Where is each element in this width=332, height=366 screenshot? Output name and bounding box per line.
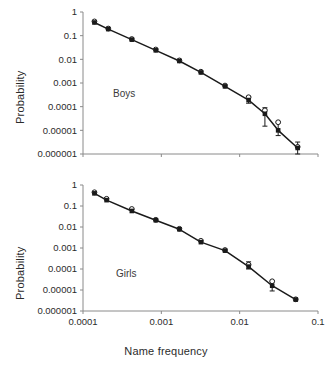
svg-text:0.01: 0.01: [59, 54, 78, 65]
y-axis-label-girls: Probability: [14, 246, 26, 300]
svg-text:1: 1: [72, 180, 77, 190]
svg-text:0.001: 0.001: [53, 77, 77, 88]
chart-panel-boys: 10.10.010.0010.00010.000010.000001: [0, 0, 332, 183]
series-annotation-girls: Girls: [116, 268, 137, 279]
svg-text:0.01: 0.01: [230, 316, 249, 327]
svg-text:0.001: 0.001: [149, 316, 173, 327]
figure-container: 10.10.010.0010.00010.000010.000001 10.10…: [0, 0, 332, 366]
chart-panel-girls: 10.10.010.0010.00010.000010.0000010.0001…: [0, 180, 332, 366]
svg-text:0.0001: 0.0001: [68, 316, 97, 327]
svg-text:0.0001: 0.0001: [48, 263, 77, 274]
plot-area-boys: 10.10.010.0010.00010.000010.000001: [0, 0, 332, 183]
x-axis-label: Name frequency: [0, 345, 332, 357]
svg-text:0.000001: 0.000001: [37, 305, 77, 316]
svg-text:1: 1: [72, 6, 77, 17]
svg-text:0.1: 0.1: [64, 30, 77, 41]
svg-text:0.1: 0.1: [311, 316, 324, 327]
svg-text:0.000001: 0.000001: [37, 148, 77, 159]
svg-text:0.0001: 0.0001: [48, 101, 77, 112]
plot-area-girls: 10.10.010.0010.00010.000010.0000010.0001…: [0, 180, 332, 366]
svg-text:0.001: 0.001: [53, 242, 77, 253]
series-annotation-boys: Boys: [113, 88, 135, 99]
svg-text:0.01: 0.01: [59, 221, 78, 232]
svg-text:0.00001: 0.00001: [43, 125, 77, 136]
svg-text:0.00001: 0.00001: [43, 284, 77, 295]
y-axis-label-boys: Probability: [14, 70, 26, 124]
svg-text:0.1: 0.1: [64, 200, 77, 211]
